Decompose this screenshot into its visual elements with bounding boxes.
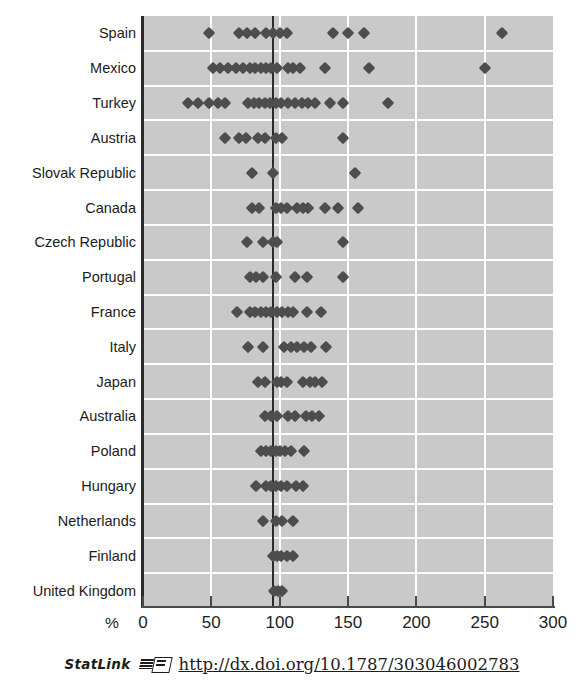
category-label-finland: Finland: [2, 548, 136, 564]
data-point: [316, 375, 329, 388]
category-label-austria: Austria: [2, 130, 136, 146]
data-point: [313, 410, 326, 423]
data-point: [257, 340, 270, 353]
statlink-label: StatLink: [65, 656, 131, 672]
category-label-portugal: Portugal: [2, 269, 136, 285]
tickmark: [142, 596, 144, 607]
statlink-barcode-icon: [140, 657, 170, 671]
data-point: [358, 27, 371, 40]
data-point: [287, 515, 300, 528]
plot-area: [143, 16, 553, 608]
doi-link[interactable]: http://dx.doi.org/10.1787/303046002783: [179, 655, 520, 674]
category-label-japan: Japan: [2, 374, 136, 390]
dot-plot-chart: SpainMexicoTurkeyAustriaSlovak RepublicC…: [0, 0, 584, 683]
gridline-vertical: [484, 16, 486, 608]
data-point: [246, 166, 259, 179]
data-point: [231, 306, 244, 319]
x-tick-label: 150: [334, 612, 362, 634]
data-point: [342, 27, 355, 40]
data-point: [320, 340, 333, 353]
data-point: [327, 27, 340, 40]
category-label-spain: Spain: [2, 25, 136, 41]
data-point: [362, 62, 375, 75]
x-tick-label: 50: [202, 612, 221, 634]
gridline-vertical: [415, 16, 417, 608]
data-point: [318, 201, 331, 214]
tickmark: [484, 596, 486, 607]
data-point: [288, 271, 301, 284]
tickmark: [347, 596, 349, 607]
data-point: [496, 27, 509, 40]
y-axis-line: [141, 16, 144, 608]
data-point: [219, 132, 232, 145]
statlink-footer: StatLink http://dx.doi.org/10.1787/30304…: [0, 648, 584, 680]
category-label-australia: Australia: [2, 408, 136, 424]
data-point: [351, 201, 364, 214]
data-point: [381, 97, 394, 110]
data-point: [324, 97, 337, 110]
category-label-slovak-republic: Slovak Republic: [2, 165, 136, 181]
category-labels: SpainMexicoTurkeyAustriaSlovak RepublicC…: [0, 0, 136, 608]
category-label-czech-republic: Czech Republic: [2, 234, 136, 250]
category-label-united-kingdom: United Kingdom: [2, 583, 136, 599]
x-axis-tick-labels: 050100150200250300: [0, 612, 584, 638]
category-label-netherlands: Netherlands: [2, 513, 136, 529]
data-point: [314, 306, 327, 319]
category-label-canada: Canada: [2, 200, 136, 216]
data-point: [240, 236, 253, 249]
x-tick-label: 250: [470, 612, 498, 634]
x-tick-label: 100: [265, 612, 293, 634]
data-point: [253, 201, 266, 214]
data-point: [266, 166, 279, 179]
x-tick-label: 0: [138, 612, 147, 634]
tickmark: [552, 596, 554, 607]
data-point: [202, 27, 215, 40]
data-point: [298, 445, 311, 458]
tickmark: [210, 596, 212, 607]
category-label-france: France: [2, 304, 136, 320]
category-label-hungary: Hungary: [2, 478, 136, 494]
data-point: [348, 166, 361, 179]
category-label-poland: Poland: [2, 443, 136, 459]
category-label-turkey: Turkey: [2, 95, 136, 111]
data-point: [318, 62, 331, 75]
category-label-mexico: Mexico: [2, 60, 136, 76]
data-point: [332, 201, 345, 214]
x-tick-label: 200: [402, 612, 430, 634]
tickmark: [279, 596, 281, 607]
category-label-italy: Italy: [2, 339, 136, 355]
data-point: [478, 62, 491, 75]
data-point: [301, 271, 314, 284]
tickmark: [415, 596, 417, 607]
data-point: [242, 340, 255, 353]
x-tick-label: 300: [539, 612, 567, 634]
data-point: [301, 306, 314, 319]
data-point: [257, 515, 270, 528]
